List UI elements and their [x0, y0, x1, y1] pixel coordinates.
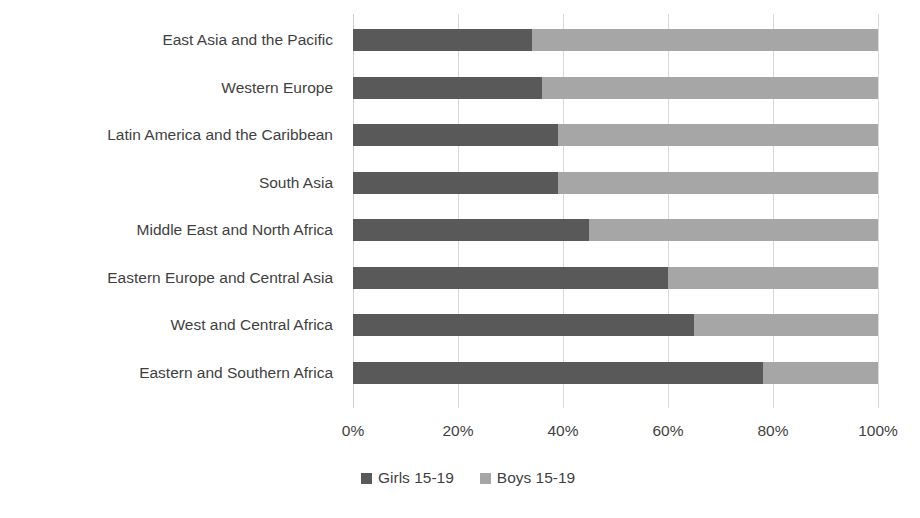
bar-row — [353, 172, 878, 194]
plot-area — [353, 14, 878, 408]
bar-segment-girls-15-19 — [353, 219, 589, 241]
category-label: Middle East and North Africa — [3, 219, 333, 241]
bar-row — [353, 267, 878, 289]
category-label: Latin America and the Caribbean — [3, 124, 333, 146]
legend-item-girls-15-19[interactable]: Girls 15-19 — [361, 468, 454, 488]
bar-segment-boys-15-19 — [694, 314, 878, 336]
bar-row — [353, 219, 878, 241]
category-label: West and Central Africa — [3, 314, 333, 336]
x-axis-tick-label: 60% — [652, 420, 683, 442]
category-label: East Asia and the Pacific — [3, 29, 333, 51]
x-axis-tick-label: 40% — [547, 420, 578, 442]
bar-segment-girls-15-19 — [353, 77, 542, 99]
category-label: Western Europe — [3, 77, 333, 99]
x-axis-tick-label: 100% — [858, 420, 898, 442]
bar-row — [353, 362, 878, 384]
chart-legend: Girls 15-19Boys 15-19 — [353, 466, 878, 490]
bar-segment-boys-15-19 — [532, 29, 879, 51]
legend-swatch-icon — [361, 473, 372, 484]
bar-segment-boys-15-19 — [668, 267, 878, 289]
legend-item-boys-15-19[interactable]: Boys 15-19 — [480, 468, 575, 488]
bar-series-group — [353, 14, 878, 408]
bar-row — [353, 314, 878, 336]
bar-segment-boys-15-19 — [763, 362, 879, 384]
bar-row — [353, 124, 878, 146]
bar-segment-girls-15-19 — [353, 124, 558, 146]
category-label: South Asia — [3, 172, 333, 194]
gridline — [878, 14, 879, 408]
bar-segment-boys-15-19 — [558, 172, 878, 194]
bar-segment-girls-15-19 — [353, 267, 668, 289]
x-axis-tick-label: 0% — [342, 420, 364, 442]
bar-segment-boys-15-19 — [542, 77, 878, 99]
bar-segment-girls-15-19 — [353, 29, 532, 51]
bar-row — [353, 29, 878, 51]
category-label: Eastern Europe and Central Asia — [3, 267, 333, 289]
category-label: Eastern and Southern Africa — [3, 362, 333, 384]
x-axis-tick-label: 20% — [442, 420, 473, 442]
y-axis-category-labels: East Asia and the PacificWestern EuropeL… — [0, 14, 345, 408]
bar-segment-boys-15-19 — [558, 124, 878, 146]
bar-segment-girls-15-19 — [353, 362, 763, 384]
chart-container: East Asia and the PacificWestern EuropeL… — [0, 0, 920, 518]
legend-label: Girls 15-19 — [378, 468, 454, 488]
bar-segment-boys-15-19 — [589, 219, 878, 241]
legend-label: Boys 15-19 — [497, 468, 575, 488]
x-axis-tick-label: 80% — [757, 420, 788, 442]
x-axis-tick-labels: 0%20%40%60%80%100% — [353, 420, 878, 444]
bar-segment-girls-15-19 — [353, 314, 694, 336]
bar-segment-girls-15-19 — [353, 172, 558, 194]
legend-swatch-icon — [480, 473, 491, 484]
bar-row — [353, 77, 878, 99]
